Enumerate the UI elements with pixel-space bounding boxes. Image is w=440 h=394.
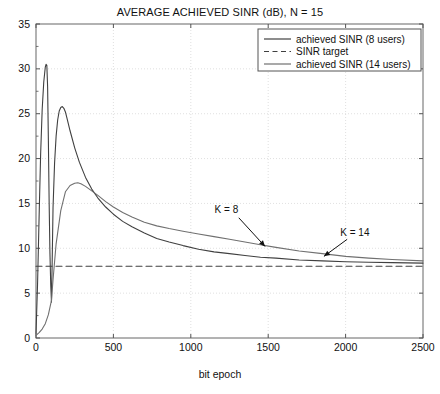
x-tick-label: 0: [33, 341, 39, 353]
y-tick-label: 0: [24, 332, 30, 344]
y-tick-label: 30: [18, 62, 30, 74]
legend-label: achieved SINR (8 users): [296, 34, 405, 45]
annotation-label: K = 8: [215, 204, 239, 215]
x-tick-label: 2000: [334, 341, 358, 353]
y-tick-label: 10: [18, 242, 30, 254]
x-tick-label: 1500: [257, 341, 281, 353]
x-axis-label: bit epoch: [0, 368, 440, 380]
y-tick-label: 15: [18, 197, 30, 209]
y-tick-label: 5: [24, 287, 30, 299]
data-series: [36, 64, 423, 335]
figure-container: AVERAGE ACHIEVED SINR (dB), N = 15 05001…: [0, 0, 440, 394]
x-tick-label: 1000: [179, 341, 203, 353]
chart-legend: achieved SINR (8 users)SINR targetachiev…: [258, 29, 421, 71]
annotation-label: K = 14: [340, 227, 370, 238]
y-tick-label: 25: [18, 107, 30, 119]
y-tick-label: 20: [18, 152, 30, 164]
chart-plot: 0500100015002000250005101520253035 K = 8…: [0, 0, 440, 394]
y-tick-label: 35: [18, 18, 30, 30]
legend-label: SINR target: [296, 46, 348, 57]
legend-label: achieved SINR (14 users): [296, 59, 411, 70]
x-tick-label: 2500: [411, 341, 435, 353]
x-tick-label: 500: [105, 341, 123, 353]
series-line: [36, 64, 423, 333]
